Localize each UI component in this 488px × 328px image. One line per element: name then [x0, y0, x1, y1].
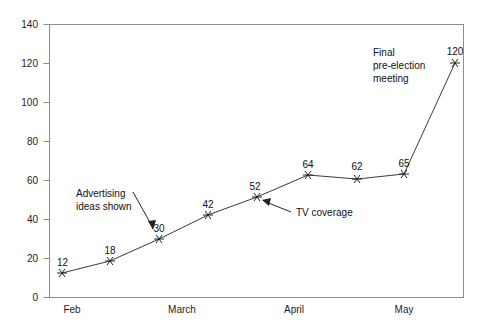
y-tick-label-60: 60 [27, 175, 39, 186]
y-axis-ticks [44, 25, 50, 298]
annotation-advertising-line2: ideas shown [76, 201, 132, 212]
x-label-march: March [168, 304, 196, 315]
line-chart: 140 120 100 80 60 40 20 0 Feb March Apri… [0, 0, 488, 328]
y-tick-label-40: 40 [27, 214, 39, 225]
point-label-12: 12 [57, 257, 69, 268]
point-label-65: 65 [398, 158, 410, 169]
chart-canvas: 140 120 100 80 60 40 20 0 Feb March Apri… [0, 0, 488, 328]
x-axis-labels: Feb March April May [63, 304, 413, 315]
x-label-may: May [395, 304, 414, 315]
annotation-final-meeting-line3: meeting [373, 73, 409, 84]
y-tick-label-120: 120 [21, 58, 38, 69]
point-label-64: 64 [302, 159, 314, 170]
annotation-final-meeting-line1: Final [373, 47, 395, 58]
x-label-feb: Feb [63, 304, 81, 315]
y-tick-label-20: 20 [27, 253, 39, 264]
y-tick-label-100: 100 [21, 97, 38, 108]
point-label-18: 18 [104, 245, 116, 256]
point-label-120: 120 [447, 46, 464, 57]
y-tick-label-80: 80 [27, 136, 39, 147]
point-label-30: 30 [153, 223, 165, 234]
x-label-april: April [284, 304, 304, 315]
y-tick-label-0: 0 [32, 292, 38, 303]
point-label-62: 62 [351, 161, 363, 172]
y-tick-label-140: 140 [21, 19, 38, 30]
annotation-advertising-line1: Advertising [76, 188, 125, 199]
annotation-tv-coverage-label: TV coverage [296, 207, 353, 218]
y-axis-labels: 140 120 100 80 60 40 20 0 [21, 19, 38, 303]
point-label-42: 42 [202, 199, 214, 210]
annotation-final-meeting-line2: pre-election [373, 60, 425, 71]
point-label-52: 52 [249, 181, 261, 192]
